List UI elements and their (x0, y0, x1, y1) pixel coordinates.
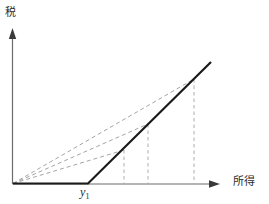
figure-canvas: 税 所得 y1 (0, 0, 269, 204)
tax-liability-curve (13, 62, 211, 184)
threshold-label-subscript: 1 (86, 192, 90, 201)
y-axis-arrowhead (9, 28, 16, 39)
x-axis-arrowhead (209, 180, 220, 187)
threshold-label-base: y (80, 185, 85, 199)
y-axis-label: 税 (5, 7, 16, 18)
average-rate-ray-2 (13, 124, 148, 184)
x-axis-label: 所得 (233, 176, 255, 187)
threshold-label: y1 (80, 186, 90, 201)
average-rate-ray-1 (13, 150, 124, 184)
tax-schedule-chart (0, 0, 269, 204)
